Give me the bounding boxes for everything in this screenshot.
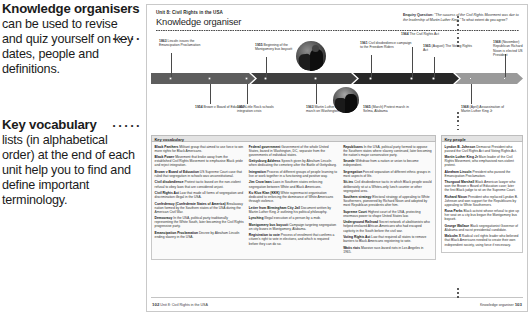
vocabulary-entry: Voting Rights Act Law that required all … bbox=[343, 235, 432, 243]
page-number-left: 102 bbox=[152, 302, 159, 307]
vocabulary-entry: Republicans In the USA, political party … bbox=[343, 145, 432, 157]
timeline-event-above: 1964 The Civil Rights Act bbox=[401, 32, 441, 36]
timeline-stem bbox=[210, 84, 211, 104]
key-person-entry: Abraham Lincoln President who passed the… bbox=[445, 170, 520, 178]
timeline-event-above: 1968 (November) Republican Richard Nixon… bbox=[493, 40, 527, 57]
vocabulary-entry: Segregation Forced separation of differe… bbox=[343, 170, 432, 178]
annotation-title: Knowledge organisers bbox=[2, 2, 140, 17]
page-number-right: 103 bbox=[515, 302, 522, 307]
book-page: Unit 8: Civil Rights in the USA Knowledg… bbox=[146, 4, 528, 312]
timeline-stem bbox=[171, 53, 172, 77]
timeline-event-below: 1965 (March) Protest march in Selma, Ala… bbox=[363, 105, 415, 114]
vocabulary-column-1: Black Panthers Militant group that aimed… bbox=[155, 145, 244, 257]
timeline-event-year: 1964 bbox=[401, 32, 409, 36]
key-person-entry: Martin Luther King Jr Main leader of the… bbox=[445, 155, 520, 167]
vocabulary-entry: Black Panthers Militant group that aimed… bbox=[155, 145, 244, 153]
vocabulary-entry: Montgomery bus boycott Campaign targetin… bbox=[249, 223, 338, 231]
footer-left: 102 Unit 8: Civil Rights in the USA bbox=[152, 302, 208, 307]
timeline-event-below: 1968 (April) Assassination of Martin Lut… bbox=[461, 105, 513, 114]
timeline: 1863 Lincoln issues the Emancipation Pro… bbox=[151, 27, 523, 127]
vocabulary-entry: Integration Process of different groups … bbox=[249, 170, 338, 178]
timeline-event-text: Civil disobedience campaign to the Freed… bbox=[360, 41, 411, 49]
key-people-body: Lyndon B. Johnson Democrat President who… bbox=[441, 142, 523, 253]
footer-right: Knowledge organiser 103 bbox=[480, 302, 522, 307]
footer-left-text: Unit 8: Civil Rights in the USA bbox=[160, 303, 208, 307]
vocabulary-entry: Federal government Government of the who… bbox=[249, 145, 338, 157]
vocabulary-entry: Supreme Court Highest court of the USA, … bbox=[343, 210, 432, 218]
timeline-segment-1 bbox=[151, 73, 255, 84]
enquiry-prompt: To what extent do you agree? bbox=[462, 18, 508, 22]
annotation-body: can be used to revise and quiz yourself … bbox=[2, 17, 140, 78]
key-person-entry: George Wallace Black segregationist Gove… bbox=[445, 224, 520, 232]
vocabulary-entry: Jim Crow laws Laws in Southern states en… bbox=[249, 180, 338, 188]
vocabulary-entry: Brown v Board of Education US Supreme Co… bbox=[155, 170, 244, 178]
key-person-entry: Rosa Parks Black activist whose refusal … bbox=[445, 209, 520, 221]
timeline-event-above: 1863 Lincoln issues the Emancipation Pro… bbox=[159, 39, 211, 48]
archival-photo-march bbox=[333, 87, 359, 113]
key-people-panel: Key people Lyndon B. Johnson Democrat Pr… bbox=[441, 135, 523, 253]
callout-leader-dots: ····· bbox=[112, 118, 142, 133]
key-people-heading: Key people bbox=[441, 135, 523, 142]
vocabulary-entry: Civil Rights Act Law that made all forms… bbox=[155, 191, 244, 199]
footer-right-text: Knowledge organiser bbox=[480, 303, 514, 307]
key-person-entry: Thurgood Marshall Black American lawyer … bbox=[445, 180, 520, 192]
enquiry-question: Enquiry Question: "The success of the Ci… bbox=[403, 13, 523, 22]
vocabulary-entry: Sit-ins Civil disobedience tactic in whi… bbox=[343, 180, 432, 192]
key-vocabulary-heading: Key vocabulary bbox=[151, 135, 436, 142]
annotation-knowledge-organisers: Knowledge organisers can be used to revi… bbox=[2, 2, 140, 77]
vocabulary-column-2: Federal government Government of the who… bbox=[249, 145, 338, 257]
footer-divider bbox=[151, 297, 523, 298]
key-person-entry: Lyndon B. Johnson Democrat President who… bbox=[445, 145, 520, 153]
annotation-key-vocabulary: Key vocabulary lists (in alphabetical or… bbox=[2, 118, 140, 209]
callout-dots-vertical-mid bbox=[457, 112, 459, 133]
vocabulary-column-3: Republicans In the USA, political party … bbox=[343, 145, 432, 257]
vocabulary-entry: Confederacy (Confederate States of Ameri… bbox=[155, 202, 244, 214]
archival-photo-bus-boycott bbox=[296, 41, 326, 71]
timeline-event-text: The Civil Rights Act bbox=[409, 32, 438, 36]
timeline-stem bbox=[371, 55, 372, 77]
timeline-event-year: 1954 bbox=[195, 105, 203, 109]
vocabulary-entry: Underground Railroad Secret network of a… bbox=[343, 220, 432, 232]
textbook-spread-screenshot: Knowledge organisers can be used to revi… bbox=[0, 0, 530, 318]
callout-dots-vertical-bottom bbox=[457, 288, 459, 301]
vocabulary-entry: Civil disobedience Protest tactic based … bbox=[155, 180, 244, 188]
timeline-stem bbox=[471, 84, 472, 104]
callout-dots-vertical-top bbox=[457, 16, 459, 50]
callout-leader-dots: ····· bbox=[112, 31, 142, 46]
vocabulary-entry: Watts riots Massive race-based riots in … bbox=[343, 246, 432, 254]
vocabulary-entry: Emancipation Proclamation Decree by Abra… bbox=[155, 231, 244, 239]
annotation-column: Knowledge organisers can be used to revi… bbox=[0, 0, 148, 318]
vocabulary-entry: Southern strategy Electoral strategy of … bbox=[343, 195, 432, 207]
timeline-stem bbox=[266, 57, 267, 77]
vocabulary-entry: Lynching Illegal execution of a person b… bbox=[249, 216, 338, 220]
timeline-stem bbox=[505, 54, 506, 77]
timeline-stem bbox=[412, 47, 413, 77]
vocabulary-entry: Registration to vote Process of enrolmen… bbox=[249, 233, 338, 245]
vocabulary-entry: Secede Withdraw from a nation or union t… bbox=[343, 159, 432, 167]
key-person-entry: Richard Nixon President who replaced Lyn… bbox=[445, 195, 520, 207]
timeline-event-below: 1957 Little Rock schools integration cri… bbox=[237, 105, 289, 114]
timeline-event-text: (August) The Voting Rights Act bbox=[423, 44, 472, 52]
enquiry-label: Enquiry Question: bbox=[403, 13, 433, 17]
vocabulary-entry: Letter from Birmingham City Jail Documen… bbox=[249, 206, 338, 214]
timeline-event-above: 1965 (August) The Voting Rights Act bbox=[423, 44, 475, 53]
vocabulary-entry: Democracy In the USA, political party tr… bbox=[155, 216, 244, 228]
key-vocabulary-body: Black Panthers Militant group that aimed… bbox=[151, 142, 436, 260]
timeline-stem bbox=[247, 84, 248, 104]
timeline-segment-4 bbox=[455, 73, 523, 84]
vocabulary-entry: Ku Klux Klan (KKK) White supremacist org… bbox=[249, 191, 338, 203]
timeline-stem bbox=[434, 57, 435, 77]
annotation-body: lists (in alphabetical order) at the end… bbox=[2, 133, 140, 209]
key-vocabulary-panel: Key vocabulary Black Panthers Militant g… bbox=[151, 135, 436, 260]
timeline-stem bbox=[316, 84, 317, 104]
vocabulary-entry: Gettysburg Address Speech given by Abrah… bbox=[249, 159, 338, 167]
timeline-event-above: 1961 Civil disobedience campaign to the … bbox=[360, 41, 412, 50]
key-person-entry: Malcolm X Radical civil rights leader wh… bbox=[445, 234, 520, 246]
vocabulary-entry: Black Power Movement that broke away fro… bbox=[155, 155, 244, 167]
timeline-band bbox=[151, 73, 523, 84]
